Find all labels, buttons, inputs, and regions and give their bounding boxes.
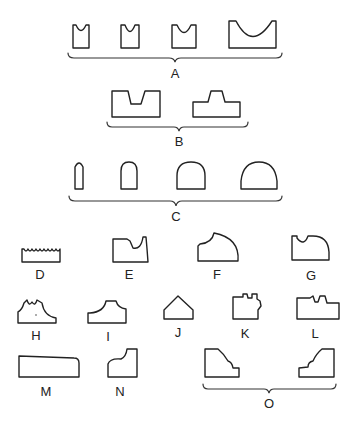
shape-d (22, 249, 60, 262)
shape-m (19, 356, 79, 377)
shape-j (164, 296, 193, 319)
shape-e (113, 237, 148, 262)
label-a: A (171, 66, 180, 81)
label-b: B (175, 134, 184, 149)
profile-diagram: A B C D E F G H I (0, 0, 348, 421)
label-k: K (241, 326, 250, 341)
label-i: I (106, 329, 110, 344)
shape-b2 (193, 91, 240, 117)
shape-h-group: H (18, 300, 56, 343)
label-d: D (35, 267, 44, 282)
shape-n-group: N (108, 349, 137, 399)
shape-a4 (229, 21, 276, 48)
shape-c4 (241, 162, 277, 189)
brace-c (69, 196, 282, 206)
label-c: C (171, 209, 180, 224)
shape-k (233, 294, 261, 319)
shape-a1 (73, 25, 89, 48)
shape-e-group: E (113, 237, 148, 282)
shape-h-dot (35, 314, 37, 316)
shape-i (88, 301, 126, 323)
brace-a (68, 53, 282, 62)
shape-m-group: M (19, 356, 79, 399)
label-e: E (125, 267, 134, 282)
shape-n (108, 349, 137, 377)
shape-g (292, 236, 329, 260)
label-n: N (115, 384, 124, 399)
label-h: H (31, 328, 40, 343)
group-c: C (69, 162, 282, 224)
label-j: J (175, 325, 182, 340)
label-f: F (213, 267, 221, 282)
shape-o2 (299, 349, 334, 377)
shape-d-group: D (22, 249, 60, 282)
shape-c3 (177, 162, 205, 189)
shape-l-group: L (297, 296, 339, 341)
shape-f-group: F (198, 233, 238, 282)
brace-o (203, 384, 336, 393)
shape-o1 (205, 349, 239, 377)
label-l: L (311, 326, 318, 341)
shape-a2 (121, 25, 139, 48)
shape-i-group: I (88, 301, 126, 344)
shape-b1 (112, 91, 160, 117)
shape-g-group: G (292, 236, 329, 283)
shape-c2 (121, 162, 137, 189)
label-g: G (306, 268, 316, 283)
label-o: O (264, 396, 274, 411)
brace-b (107, 122, 248, 131)
shape-f (198, 233, 238, 261)
group-o: O (203, 349, 336, 411)
shape-j-group: J (164, 296, 193, 340)
shape-c1 (75, 163, 83, 189)
shape-h (18, 300, 56, 323)
group-b: B (107, 91, 248, 149)
shape-a3 (172, 25, 196, 48)
group-a: A (68, 21, 282, 81)
shape-l (297, 296, 339, 319)
label-m: M (41, 384, 52, 399)
shape-k-group: K (233, 294, 261, 341)
